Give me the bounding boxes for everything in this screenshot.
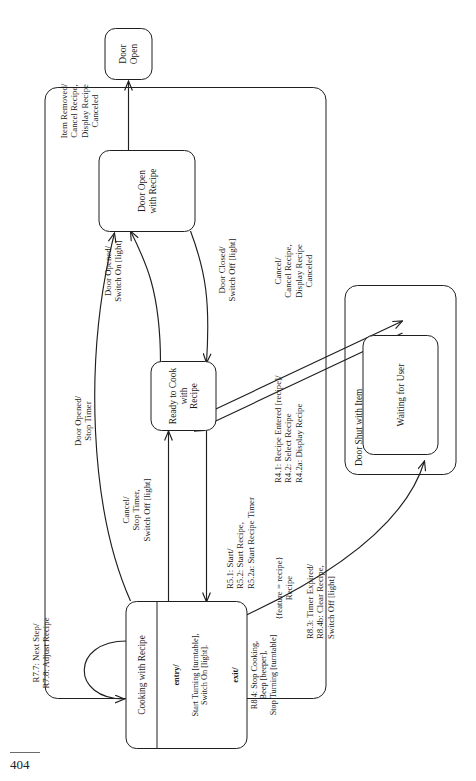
label-cancel-stop-timer: Cancel/ Stop Timer, Switch Off [light] (121, 455, 152, 565)
rotated-figure-wrapper: {feature = recipe} Recipe Door Shut with… (11, 21, 466, 761)
cooking-exit-clause: exit/ R8.4: Stop Cooking, Beep [beeper],… (221, 634, 279, 715)
label-door-opened-stop-timer: Door Opened/ Stop Timer (73, 369, 94, 473)
label-cancel-recipe: Cancel/ Cancel Recipe, Display Recipe Ca… (273, 219, 315, 323)
label-recipe-entered: R4.1: Recipe Entered [recipe]/ R4.2: Sel… (273, 325, 304, 483)
exit-keyword: exit/ (230, 667, 239, 682)
state-waiting-for-user-label: Waiting for User (395, 363, 406, 426)
book-page: {feature = recipe} Recipe Door Shut with… (0, 0, 476, 781)
state-door-open-label: Door Open (118, 43, 139, 63)
entry-keyword: entry/ (171, 664, 180, 685)
label-timer-expired: R8.3: Timer Expired/ R8.4b: Clear Recipe… (305, 489, 336, 639)
state-diagram-canvas: {feature = recipe} Recipe Door Shut with… (11, 21, 466, 761)
label-door-opened-switch-on: Door Opened/ Switch On [light] (103, 211, 124, 331)
entry-actions: Start Turning [turntable], Switch On [li… (190, 633, 209, 716)
state-ready-to-cook-with-recipe[interactable]: Ready to Cook with Recipe (151, 361, 217, 431)
label-door-closed: Door Closed/ Switch Off [light] (217, 211, 238, 329)
state-door-open-with-recipe-label: Door Open with Recipe (136, 168, 157, 213)
label-start-recipe: R5.1: Start/ R5.2: Start Recipe, R5.2a: … (225, 429, 256, 589)
folio-rule (10, 752, 40, 753)
cooking-entry-clause: entry/ Start Turning [turntable], Switch… (162, 633, 210, 716)
state-ready-to-cook-label: Ready to Cook with Recipe (168, 367, 200, 423)
page-number: 404 (10, 757, 30, 773)
state-cooking-with-recipe[interactable]: Cooking with Recipe entry/ Start Turning… (126, 601, 248, 749)
state-waiting-for-user[interactable]: Waiting for User (363, 335, 439, 455)
state-door-open[interactable]: Door Open (105, 28, 153, 80)
label-item-removed: Item Removed/ Cancel Recipe, Display Rec… (59, 61, 101, 161)
label-next-step: R7.7: Next Step/ R7.8: Adjust Recipe (31, 589, 52, 717)
exit-actions: R8.4: Stop Cooking, Beep [beeper], Stop … (249, 634, 277, 715)
state-cooking-with-recipe-title: Cooking with Recipe (127, 602, 158, 748)
